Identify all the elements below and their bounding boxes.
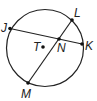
- label-l: L: [74, 6, 81, 20]
- circle-diagram: J K L M N T: [0, 0, 97, 101]
- label-j: J: [0, 21, 8, 35]
- label-t: T: [33, 40, 42, 54]
- point-k: [80, 42, 84, 46]
- chord-jk: [10, 29, 82, 45]
- label-n: N: [57, 41, 66, 55]
- point-t: [41, 45, 45, 49]
- point-j: [8, 27, 12, 31]
- label-k: K: [85, 39, 94, 53]
- point-m: [26, 81, 30, 85]
- label-m: M: [21, 87, 31, 101]
